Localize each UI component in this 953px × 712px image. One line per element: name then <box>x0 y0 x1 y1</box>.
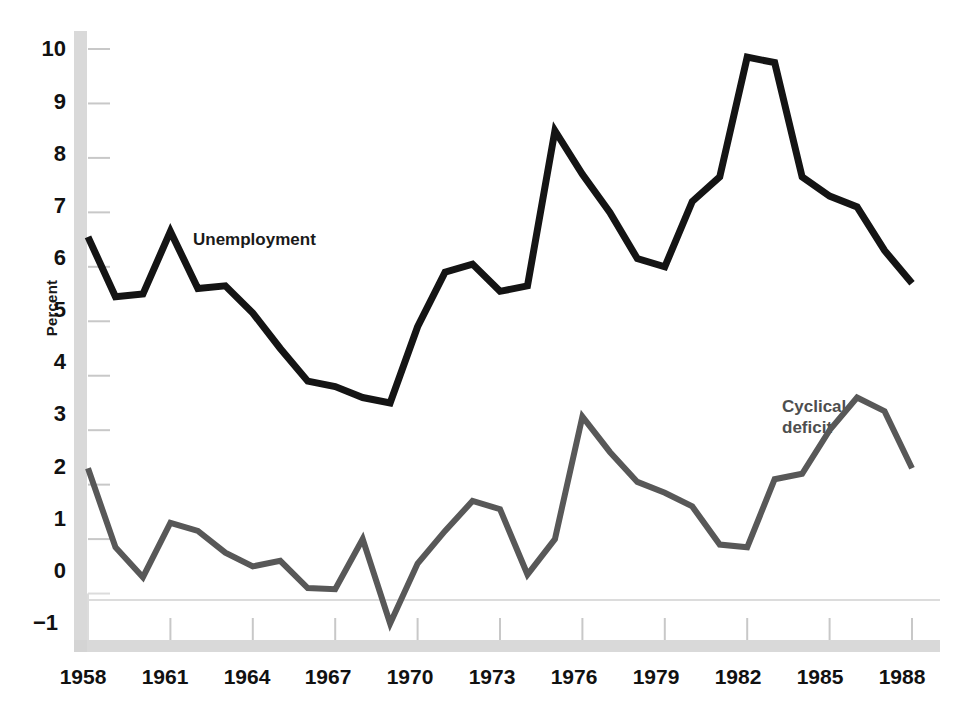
axis-bands <box>74 31 940 652</box>
data-series-group <box>88 57 912 623</box>
series-line-unemployment <box>88 57 912 403</box>
y-axis-band <box>74 31 87 652</box>
series-line-cyclical-deficit <box>88 398 912 624</box>
chart-plot-area <box>0 0 953 712</box>
axis-ticks <box>88 49 912 640</box>
chart-figure: Percent 10 9 8 7 6 5 4 3 2 1 0 −1 1958 1… <box>0 0 953 712</box>
x-axis-band <box>74 640 940 652</box>
